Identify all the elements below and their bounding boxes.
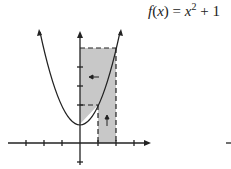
axes [8, 36, 148, 165]
diagram-canvas: f(x) = x2 + 1 [0, 0, 231, 169]
graph [0, 0, 231, 169]
shaded-region [80, 48, 116, 143]
